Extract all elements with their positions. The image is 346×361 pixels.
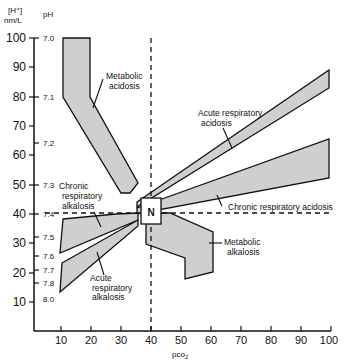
h-axis-label-1: [H⁺]	[8, 6, 22, 15]
ph-tick-7.5: 7.5	[43, 233, 55, 242]
x-tick-60: 60	[205, 334, 217, 346]
ph-tick-7.2: 7.2	[43, 139, 55, 148]
region-metabolic-acidosis	[63, 38, 138, 193]
y-tick-90: 90	[13, 60, 27, 74]
ph-tick-7.6: 7.6	[43, 252, 55, 261]
label-metabolic-acidosis-2: acidosis	[109, 81, 140, 91]
ph-tick-7.8: 7.8	[43, 279, 55, 288]
ph-tick-7.3: 7.3	[43, 181, 55, 190]
label-acute-resp-acidosis-2: acidosis	[201, 118, 232, 128]
y-tick-80: 80	[13, 90, 27, 104]
y-tick-40: 40	[13, 207, 27, 221]
ph-axis-label: pH	[43, 10, 53, 19]
label-chronic-resp-alkalosis-3: alkalosis	[62, 201, 95, 211]
label-metabolic-alkalosis-2: alkalosis	[227, 247, 260, 257]
ph-tick-8.0: 8.0	[43, 295, 55, 304]
x-axis-label: pco2	[172, 350, 189, 360]
ph-tick-7.1: 7.1	[43, 93, 55, 102]
y-tick-20: 20	[13, 266, 27, 280]
label-acute-resp-acidosis-1: Acute respiratory	[198, 108, 263, 118]
y-tick-70: 70	[13, 119, 27, 133]
label-chronic-resp-alkalosis-2: respiratory	[62, 191, 103, 201]
ph-tick-7.7: 7.7	[43, 266, 55, 275]
x-tick-30: 30	[115, 334, 127, 346]
label-acute-resp-alkalosis-1: Acute	[90, 273, 112, 283]
ph-tick-7.0: 7.0	[43, 34, 55, 43]
x-tick-40: 40	[145, 334, 157, 346]
label-metabolic-alkalosis-1: Metabolic	[224, 237, 261, 247]
y-tick-60: 60	[13, 148, 27, 162]
x-tick-90: 90	[295, 334, 307, 346]
x-tick-70: 70	[235, 334, 247, 346]
y-tick-10: 10	[13, 295, 27, 309]
label-metabolic-acidosis-1: Metabolic	[106, 71, 143, 81]
label-chronic-resp-alkalosis-1: Chronic	[59, 181, 89, 191]
x-tick-10: 10	[55, 334, 67, 346]
label-acute-resp-alkalosis-3: alkalosis	[92, 292, 125, 302]
y-tick-30: 30	[13, 236, 27, 250]
acid-base-nomogram: N 100 90 80 70 60 50 40 30 20 10	[0, 0, 346, 361]
normal-label: N	[147, 207, 154, 218]
label-chronic-resp-acidosis: Chronic respiratory acidosis	[228, 202, 333, 212]
x-tick-50: 50	[175, 334, 187, 346]
leader-metabolic-acidosis	[93, 79, 103, 108]
x-tick-100: 100	[320, 334, 338, 346]
h-axis-label-2: nm/L	[4, 16, 22, 25]
y-tick-100: 100	[6, 31, 26, 45]
x-tick-80: 80	[265, 334, 277, 346]
x-tick-20: 20	[85, 334, 97, 346]
ph-tick-7.4: 7.4	[43, 210, 55, 219]
y-tick-50: 50	[13, 178, 27, 192]
